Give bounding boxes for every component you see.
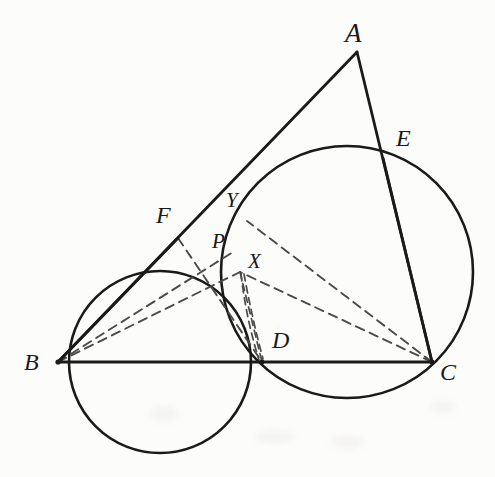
point-label-A: A [345, 20, 362, 47]
point-label-C: C [440, 360, 456, 384]
point-label-X: X [248, 251, 261, 272]
geometry-figure: A B C D E F P X Y [0, 0, 495, 477]
point-label-E: E [396, 126, 411, 150]
dashed-segment-B-X [58, 272, 240, 362]
dashed-segment-B-P [58, 252, 233, 362]
figure-canvas [0, 0, 495, 477]
point-label-F: F [156, 203, 171, 227]
dashed-lens-chord-inner-2 [244, 274, 263, 359]
point-label-Y: Y [226, 190, 238, 211]
point-label-P: P [212, 231, 225, 252]
point-label-D: D [272, 328, 289, 352]
segment-B-F [58, 238, 178, 362]
dashed-segment-C-X [240, 272, 432, 362]
point-label-B: B [24, 350, 39, 374]
